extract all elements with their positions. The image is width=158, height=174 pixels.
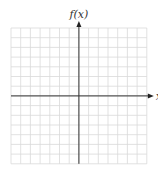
coordinate-plane: x f(x) (0, 0, 158, 174)
x-axis-arrow-icon (148, 93, 154, 98)
y-axis-label: f(x) (68, 8, 88, 21)
x-axis-label: x (156, 90, 158, 103)
y-axis-arrow-icon (76, 21, 81, 27)
